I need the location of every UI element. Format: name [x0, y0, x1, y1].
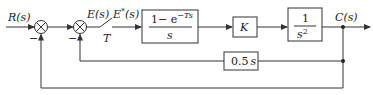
input-signal: R(s) — [6, 11, 34, 27]
error-label: E(s) — [86, 8, 109, 21]
sampler-switch: T — [87, 18, 113, 45]
sampled-error-label: E*(s) — [112, 7, 139, 21]
summing-junction-2: − — [68, 21, 87, 46]
input-label: R(s) — [7, 11, 31, 24]
plant-numerator: 1 — [302, 12, 309, 25]
block-diagram: R(s) − − E(s) T E*(s) 1− e−Ts s K — [0, 0, 373, 95]
zoh-denominator: s — [167, 29, 173, 42]
sampling-period-label: T — [103, 32, 112, 45]
plant-block: 1 s2 — [288, 8, 322, 41]
zero-order-hold-block: 1− e−Ts s — [142, 10, 198, 43]
minus-sign-2: − — [68, 32, 77, 45]
output-label: C(s) — [335, 11, 358, 24]
gain-label: K — [239, 21, 249, 34]
minus-sign-1: − — [29, 32, 38, 45]
summing-junction-1: − — [29, 21, 48, 46]
feedback-block-label: 0.5s — [231, 55, 257, 68]
gain-block: K — [233, 17, 257, 37]
